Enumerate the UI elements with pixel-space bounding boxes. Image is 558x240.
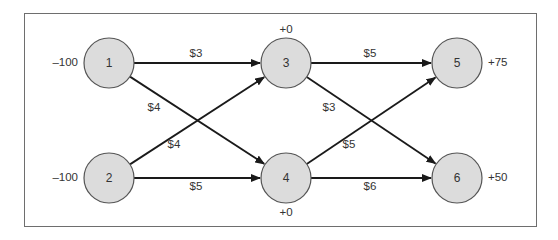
edge-cost-2-4: $5 bbox=[190, 181, 203, 193]
edge-cost-2-3: $4 bbox=[168, 139, 181, 151]
edge-cost-4-6: $6 bbox=[364, 181, 377, 193]
edge-cost-1-4: $4 bbox=[148, 102, 161, 114]
supply-label-node-3: +0 bbox=[279, 24, 292, 36]
supply-label-node-1: –100 bbox=[52, 57, 78, 69]
supply-label-node-6: +50 bbox=[488, 172, 508, 184]
edge-cost-4-5: $5 bbox=[343, 139, 356, 151]
edge-cost-3-5: $5 bbox=[364, 48, 377, 60]
supply-label-node-2: –100 bbox=[52, 172, 78, 184]
edge-cost-1-3: $3 bbox=[190, 48, 203, 60]
node-label-5: 5 bbox=[454, 57, 461, 69]
node-label-3: 3 bbox=[283, 57, 290, 69]
node-label-6: 6 bbox=[454, 172, 461, 184]
edge-cost-3-6: $3 bbox=[323, 102, 336, 114]
node-label-4: 4 bbox=[283, 172, 290, 184]
supply-label-node-5: +75 bbox=[488, 57, 508, 69]
node-label-2: 2 bbox=[106, 172, 113, 184]
node-label-1: 1 bbox=[106, 57, 113, 69]
supply-label-node-4: +0 bbox=[279, 207, 292, 219]
